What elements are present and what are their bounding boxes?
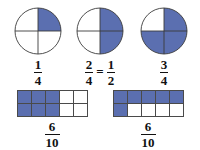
grid-cell-shaded [18, 91, 32, 104]
fraction-primary-rect-1: 6 10 [141, 120, 156, 149]
rectangle-models-row: 6 10 6 10 [0, 88, 200, 150]
fraction-label-rect-0: 6 10 [4, 120, 100, 148]
grid-cell-empty [156, 104, 170, 117]
circle-model-0: 1 4 [6, 4, 70, 88]
grid-cell-shaded [114, 91, 128, 104]
grid-cell-empty [170, 104, 184, 117]
numerator: 1 [107, 58, 116, 72]
denominator: 4 [34, 72, 43, 87]
grid-cell-shaded [32, 104, 46, 117]
denominator: 2 [107, 72, 116, 87]
quartered-circle-icon [140, 7, 188, 55]
grid-cell-shaded [32, 91, 46, 104]
circle-models-row: 1 4 2 4 [0, 4, 200, 88]
fraction-primary-rect-0: 6 10 [45, 120, 60, 149]
denominator: 10 [45, 134, 60, 149]
grid-cell-empty [74, 91, 88, 104]
grid-cell-shaded [46, 91, 60, 104]
numerator: 6 [144, 120, 153, 134]
grid-cell-shaded [46, 104, 60, 117]
fraction-primary-1: 2 4 [85, 58, 94, 87]
fraction-primary-0: 1 4 [34, 58, 43, 87]
numerator: 6 [48, 120, 57, 134]
grid-cell-empty [60, 104, 74, 117]
fraction-equivalent-1: 1 2 [107, 58, 116, 87]
numerator: 2 [85, 58, 94, 72]
grid-cell-empty [142, 104, 156, 117]
grid-cell-empty [74, 104, 88, 117]
grid-cell-shaded [142, 91, 156, 104]
grid-cell-shaded [128, 91, 142, 104]
quartered-circle-icon [76, 7, 124, 55]
circle-diagram-0 [14, 7, 62, 55]
denominator: 10 [141, 134, 156, 149]
rectangle-grid-0 [17, 90, 88, 117]
grid-cell-empty [60, 91, 74, 104]
grid-cell-shaded [170, 91, 184, 104]
fraction-diagram: 1 4 2 4 [0, 0, 200, 150]
grid-cell-shaded [18, 104, 32, 117]
fraction-label-rect-1: 6 10 [100, 120, 196, 148]
rectangle-grid-1 [113, 90, 184, 117]
equals-sign: = [95, 64, 104, 80]
fraction-label-1: 2 4 = 1 2 [68, 58, 132, 86]
rectangle-model-0: 6 10 [4, 88, 100, 150]
quartered-circle-icon [14, 7, 62, 55]
grid-cell-empty [128, 104, 142, 117]
rectangle-model-1: 6 10 [100, 88, 196, 150]
fraction-label-2: 3 4 [132, 58, 196, 86]
grid-cell-shaded [114, 104, 128, 117]
circle-model-2: 3 4 [132, 4, 196, 88]
numerator: 3 [160, 58, 169, 72]
denominator: 4 [85, 72, 94, 87]
grid-cell-shaded [156, 91, 170, 104]
fraction-label-0: 1 4 [6, 58, 70, 86]
fraction-primary-2: 3 4 [160, 58, 169, 87]
circle-diagram-2 [140, 7, 188, 55]
circle-diagram-1 [76, 7, 124, 55]
circle-model-1: 2 4 = 1 2 [68, 4, 132, 88]
denominator: 4 [160, 72, 169, 87]
numerator: 1 [34, 58, 43, 72]
